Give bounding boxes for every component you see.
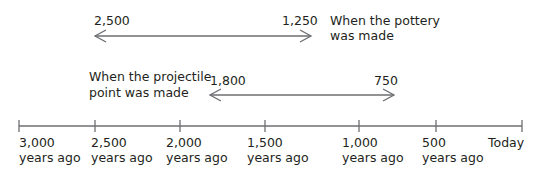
pottery-start-label: 2,500 — [94, 13, 130, 28]
tick-label-1500: 1,500years ago — [247, 135, 309, 165]
projectile-start-label: 1,800 — [210, 73, 246, 88]
tick-label-today: Today — [488, 135, 524, 150]
pottery-end-label: 1,250 — [282, 13, 318, 28]
pottery-range-arrow — [95, 30, 311, 42]
projectile-end-label: 750 — [374, 73, 398, 88]
timeline-axis — [19, 120, 522, 132]
tick-label-2000: 2,000years ago — [166, 135, 228, 165]
projectile-title-line1: When the projectile — [89, 69, 211, 84]
pottery-title-line2: was made — [330, 28, 394, 43]
tick-label-2500: 2,500years ago — [91, 135, 153, 165]
tick-label-500: 500years ago — [422, 135, 484, 165]
pottery-title-line1: When the pottery — [330, 13, 440, 28]
projectile-range-arrow — [210, 89, 394, 101]
projectile-title-line2: point was made — [89, 85, 189, 100]
tick-label-3000: 3,000years ago — [19, 135, 81, 165]
tick-label-1000: 1,000years ago — [342, 135, 404, 165]
